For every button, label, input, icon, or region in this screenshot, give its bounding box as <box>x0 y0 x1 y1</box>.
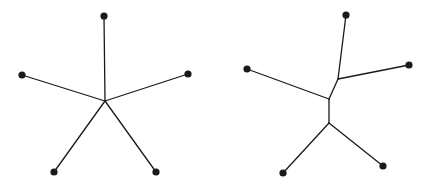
leaf-node <box>152 168 159 175</box>
leaf-node <box>184 70 191 77</box>
tree-edge <box>105 74 188 101</box>
tree-edge <box>338 65 409 79</box>
resolved-tree <box>243 11 412 176</box>
leaf-node <box>100 12 107 19</box>
leaf-node <box>342 11 349 18</box>
tree-edge <box>283 123 329 173</box>
star-tree <box>18 12 191 175</box>
leaf-node <box>379 162 386 169</box>
tree-edge <box>329 79 338 99</box>
leaf-node <box>405 61 412 68</box>
leaf-node <box>279 169 286 176</box>
tree-edge <box>105 101 156 172</box>
tree-edge <box>329 123 383 166</box>
tree-edge <box>247 69 329 99</box>
tree-edge <box>338 15 346 79</box>
leaf-node <box>50 168 57 175</box>
tree-edge <box>104 16 105 101</box>
tree-edge <box>54 101 105 172</box>
leaf-node <box>243 65 250 72</box>
leaf-node <box>18 71 25 78</box>
tree-edge <box>22 75 105 101</box>
phylogenetic-trees-diagram <box>0 0 428 184</box>
